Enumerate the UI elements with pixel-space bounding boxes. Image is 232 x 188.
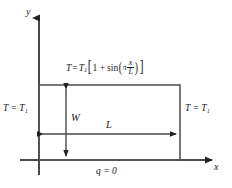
expr-close-bracket: ] bbox=[140, 61, 144, 74]
expr-equals: = bbox=[71, 63, 78, 73]
length-label: L bbox=[106, 120, 112, 131]
expr-fraction-numerator: x bbox=[128, 59, 134, 67]
width-label: W bbox=[71, 113, 80, 124]
expr-one-plus: 1 + bbox=[93, 63, 105, 73]
expr-fraction-x-over-L: x L bbox=[127, 59, 133, 77]
expr-pi-symbol: π bbox=[123, 63, 127, 72]
expr-close-paren: ) bbox=[135, 62, 138, 73]
expr-open-paren: ( bbox=[119, 62, 122, 73]
bottom-boundary-condition: q = 0 bbox=[96, 167, 117, 177]
expr-sin: sin bbox=[105, 63, 118, 73]
expr-fraction-denominator: L bbox=[127, 67, 133, 76]
right-boundary-condition: T = T₁ bbox=[185, 104, 210, 114]
x-axis-label: x bbox=[214, 162, 218, 172]
top-boundary-condition-expression: T = T1 [ 1 + sin ( π x L ) ] bbox=[66, 59, 144, 77]
y-axis-label: y bbox=[26, 7, 30, 17]
diagram-canvas bbox=[0, 0, 232, 188]
expr-open-bracket: [ bbox=[88, 61, 92, 74]
heat-conduction-diagram: y x T = T₁ T = T₁ q = 0 W L T = T1 [ 1 +… bbox=[0, 0, 232, 188]
left-boundary-condition: T = T₁ bbox=[3, 104, 28, 114]
